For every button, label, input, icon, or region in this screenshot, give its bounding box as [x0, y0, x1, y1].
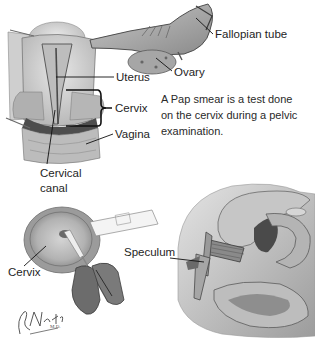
figure-caption: A Pap smear is a test done on the cervix…: [161, 91, 311, 139]
label-fallopian-tube: Fallopian tube: [215, 28, 287, 41]
label-cervical-canal-line2: canal: [40, 182, 68, 195]
label-cervix-bottom: Cervix: [8, 266, 41, 279]
caption-line-1: A Pap smear is a test done: [161, 91, 311, 107]
label-speculum: Speculum: [124, 246, 175, 259]
svg-text:M.D.: M.D.: [50, 324, 61, 329]
label-ovary: Ovary: [174, 66, 205, 79]
pelvic-sagittal-section: [178, 184, 315, 338]
label-vagina: Vagina: [115, 128, 150, 141]
caption-line-2: on the cervix during a pelvic: [161, 107, 311, 123]
label-cervical-canal-line1: Cervical: [40, 167, 82, 180]
cervix-speculum-view: [24, 207, 158, 314]
caption-line-3: examination.: [161, 123, 311, 139]
label-uterus: Uterus: [116, 71, 150, 84]
netter-signature: M.D.: [19, 312, 63, 334]
label-cervix-top: Cervix: [115, 102, 148, 115]
fallopian-tube-and-ovary: [90, 4, 213, 74]
